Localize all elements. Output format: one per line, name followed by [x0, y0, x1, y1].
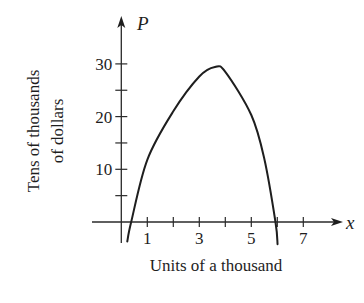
y-tick-label: 20 — [95, 108, 112, 127]
y-axis-title-line-2: of dollars — [48, 99, 67, 164]
x-tick-label: 3 — [195, 229, 204, 248]
y-variable-label: P — [136, 13, 149, 34]
x-variable-label: x — [345, 212, 355, 233]
tick-labels: 1357102030 — [95, 55, 308, 248]
y-tick-label: 30 — [95, 55, 112, 74]
axis-ticks — [115, 64, 303, 227]
profit-chart: P x 1357102030 Units of a thousand Tens … — [0, 0, 364, 303]
x-tick-label: 5 — [247, 229, 256, 248]
x-axis-title: Units of a thousand — [150, 256, 283, 275]
y-axis-title-line-1: Tens of thousands — [24, 70, 43, 193]
x-tick-label: 1 — [143, 229, 152, 248]
y-tick-label: 10 — [95, 160, 112, 179]
x-tick-label: 7 — [299, 229, 308, 248]
profit-curve — [127, 66, 277, 244]
